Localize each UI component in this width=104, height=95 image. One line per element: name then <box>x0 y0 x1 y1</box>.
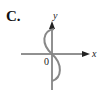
y-axis-label: y <box>52 10 58 21</box>
y-axis-arrow-icon <box>49 21 55 29</box>
origin-label: 0 <box>44 56 49 67</box>
x-axis-label: x <box>91 48 97 59</box>
graph: y x 0 <box>0 0 104 95</box>
x-axis-arrow-icon <box>82 51 90 57</box>
